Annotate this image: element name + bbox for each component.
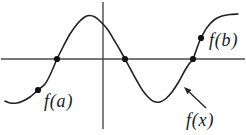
curve-point-dot (122, 56, 128, 62)
graph-canvas: f(a) f(b) f(x) (0, 0, 246, 135)
label-f-of-a: f(a) (44, 91, 73, 112)
function-graph-figure: f(a) f(b) f(x) (0, 0, 246, 135)
curve-point-dot (35, 87, 41, 93)
label-f-of-x: f(x) (186, 110, 214, 131)
curve-point-dot (198, 35, 204, 41)
curve-point-dot (190, 56, 196, 62)
label-f-of-b: f(b) (209, 30, 238, 51)
curve-point-dot (54, 56, 60, 62)
fx-arrow-line (189, 92, 206, 108)
